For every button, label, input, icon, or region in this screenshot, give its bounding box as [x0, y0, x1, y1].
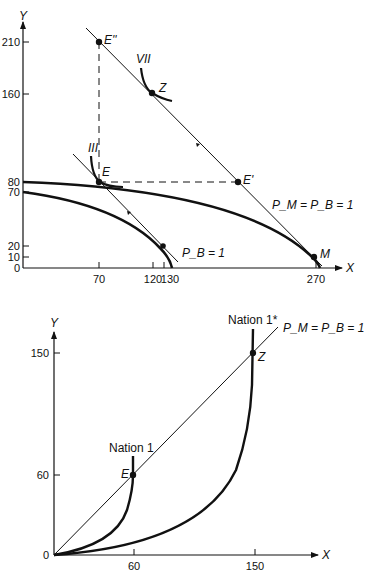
top-panel: Y X 210 160 80 70 20 10 0 70 120 130	[2, 9, 355, 285]
bottom-y-ticks: 150 60 0	[31, 347, 60, 561]
label-Z-bottom: Z	[257, 350, 266, 364]
point-Z-top	[149, 90, 155, 96]
label-E-top: E	[102, 165, 111, 179]
label-VII: VII	[136, 52, 151, 66]
label-M: M	[320, 247, 330, 261]
top-y-axis-label: Y	[19, 9, 28, 23]
bottom-y-axis-label: Y	[50, 316, 59, 330]
indifference-curve-VII	[141, 68, 172, 101]
point-M	[311, 254, 317, 260]
label-nation1-star: Nation 1*	[228, 313, 278, 327]
label-E-double-prime: E''	[104, 33, 117, 47]
label-nation1: Nation 1	[109, 441, 154, 455]
top-y-ticks: 210 160 80 70 20 10 0	[2, 36, 29, 274]
label-III: III	[88, 141, 99, 155]
x-tick-130: 130	[161, 273, 179, 285]
point-E-top	[96, 179, 102, 185]
price-line-world-arrow-icon	[196, 143, 200, 147]
price-line-world	[86, 28, 322, 266]
top-x-axis-label: X	[345, 261, 355, 275]
point-E-bottom	[130, 472, 136, 478]
y-tick-150: 150	[31, 347, 49, 359]
point-Z-bottom	[250, 350, 256, 356]
top-x-ticks: 70 120 130 270	[93, 262, 325, 285]
x-tick-60: 60	[128, 560, 140, 572]
x-tick-70: 70	[93, 273, 105, 285]
x-tick-120: 120	[144, 273, 162, 285]
figure: Y X 210 160 80 70 20 10 0 70 120 130	[0, 0, 370, 580]
y-tick-0: 0	[43, 549, 49, 561]
label-price-45deg: P_M = P_B = 1	[283, 321, 364, 335]
point-autarky-tangency	[160, 243, 166, 249]
y-tick-60: 60	[37, 469, 49, 481]
y-tick-0: 0	[14, 262, 20, 274]
bottom-x-ticks: 60 150	[128, 549, 264, 572]
y-tick-160: 160	[2, 88, 20, 100]
point-E-double-prime	[96, 39, 102, 45]
bottom-panel: Y X 150 60 0 60 150 E Z Nation 1 Nation …	[31, 313, 365, 572]
label-E-prime: E'	[243, 173, 254, 187]
label-Z-top: Z	[158, 81, 167, 95]
x-tick-150: 150	[246, 560, 264, 572]
label-price-world: P_M = P_B = 1	[272, 198, 353, 212]
y-tick-70: 70	[8, 186, 20, 198]
label-price-autarky: P_B = 1	[182, 246, 225, 260]
label-E-bottom: E	[121, 467, 130, 481]
bottom-x-axis-label: X	[321, 548, 331, 562]
x-tick-270: 270	[307, 273, 325, 285]
y-tick-210: 210	[2, 36, 20, 48]
ppf-inner-curve	[23, 192, 172, 268]
point-E-prime	[235, 179, 241, 185]
